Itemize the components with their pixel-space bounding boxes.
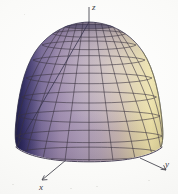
x-axis-label: x bbox=[38, 182, 43, 192]
y-axis-line bbox=[140, 158, 166, 170]
paraboloid-plot: z y x bbox=[0, 0, 178, 194]
z-axis-label: z bbox=[91, 2, 96, 12]
y-axis-label: y bbox=[164, 159, 169, 169]
surface-figure: z y x bbox=[0, 0, 178, 194]
x-axis-line bbox=[42, 160, 66, 180]
paraboloid-surface bbox=[15, 22, 163, 162]
